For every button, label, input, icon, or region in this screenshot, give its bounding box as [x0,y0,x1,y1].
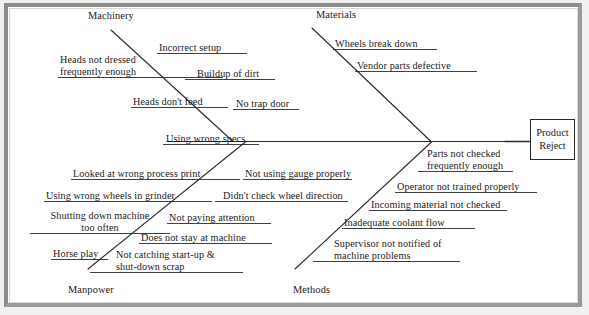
category-label-machinery: Machinery [88,10,134,21]
diagram-canvas: Machinery Materials Manpower Methods Inc… [0,0,589,315]
cause-parts-not-checked: Parts not checked frequently enough [427,148,503,171]
cause-not-using-gauge-properly: Not using gauge properly [245,168,351,180]
cause-operator-not-trained-properly: Operator not trained properly [397,181,520,193]
effect-box-line1: Product [531,126,574,139]
cause-shutting-down-machine: Shutting down machine too often [32,210,168,233]
cause-didnt-check-wheel-direction: Didn't check wheel direction [223,190,343,202]
cause-horse-play: Horse play [53,248,98,260]
cause-supervisor-not-notified: Supervisor not notified of machine probl… [334,238,442,261]
cause-heads-not-dressed: Heads not dressed frequently enough [60,54,136,77]
cause-incorrect-setup: Incorrect setup [159,42,221,54]
cause-wheels-break-down: Wheels break down [335,38,418,50]
cause-using-wrong-specs: Using wrong specs [166,133,245,145]
cause-not-paying-attention: Not paying attention [169,212,255,224]
category-label-manpower: Manpower [68,284,114,295]
fishbone-diagram-root: Machinery Materials Manpower Methods Inc… [0,0,589,315]
cause-looked-at-wrong-process-print: Looked at wrong process print [73,168,200,180]
cause-does-not-stay-at-machine: Does not stay at machine [141,232,246,244]
cause-not-catching-scrap: Not catching start-up & shut-down scrap [116,249,215,272]
cause-no-trap-door: No trap door [236,98,289,110]
cause-vendor-parts-defective: Vendor parts defective [357,60,451,72]
cause-heads-dont-feed: Heads don't feed [133,96,203,108]
category-label-methods: Methods [293,284,330,295]
category-label-materials: Materials [316,9,356,20]
effect-box: Product Reject [530,119,575,160]
cause-using-wrong-wheels-in-grinder: Using wrong wheels in grinder [46,190,175,202]
effect-box-line2: Reject [531,139,574,152]
cause-incoming-material-not-checked: Incoming material not checked [371,199,500,211]
cause-inadequate-coolant-flow: Inadequate coolant flow [344,217,445,229]
cause-buildup-of-dirt: Buildup of dirt [197,68,259,80]
